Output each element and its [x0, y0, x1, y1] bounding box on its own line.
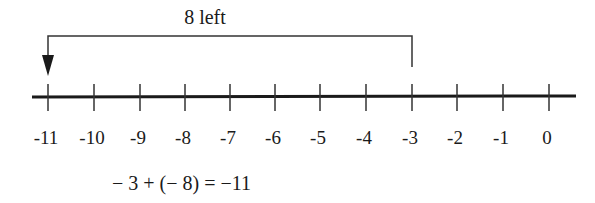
- tick-label: 0: [542, 127, 552, 149]
- arrowhead-down-icon: [42, 55, 54, 76]
- number-line-axis: [32, 96, 576, 97]
- tick-label: -9: [130, 127, 146, 149]
- tick-label: -10: [79, 127, 104, 149]
- number-line-graphic: [0, 0, 595, 203]
- equation: − 3 + (− 8) = −11: [112, 172, 251, 195]
- tick-label: -1: [493, 127, 509, 149]
- tick-label: -11: [34, 127, 59, 149]
- tick-label: -8: [175, 127, 191, 149]
- tick-label: -6: [265, 127, 281, 149]
- tick-label: -2: [447, 127, 463, 149]
- jump-label: 8 left: [184, 6, 226, 29]
- tick-label: -4: [356, 127, 372, 149]
- tick-label: -5: [310, 127, 326, 149]
- tick-label: -3: [402, 127, 418, 149]
- tick-label: -7: [220, 127, 236, 149]
- jump-bracket: [48, 36, 412, 67]
